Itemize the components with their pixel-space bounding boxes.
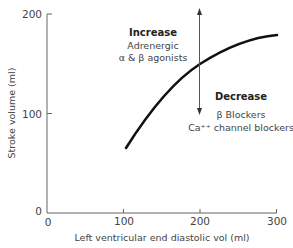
y-axis-title: Stroke volume (ml): [6, 68, 17, 159]
decrease-line2: Ca⁺⁺ channel blockers: [188, 122, 293, 133]
decrease-line1: β Blockers: [216, 109, 265, 120]
x-axis: [47, 209, 277, 213]
y-axis: [47, 14, 52, 213]
x-tick-label-100: 100: [114, 215, 134, 227]
decrease-annotation: Decrease β Blockers Ca⁺⁺ channel blocker…: [188, 91, 293, 133]
increase-title: Increase: [129, 27, 177, 38]
x-axis-title: Left ventricular end diastolic vol (ml): [74, 232, 249, 243]
x-tick-label-300: 300: [267, 215, 287, 227]
y-tick-label-100: 100: [22, 108, 42, 120]
x-tick-label-200: 200: [190, 215, 210, 227]
double-arrow-icon: [197, 8, 202, 115]
increase-line1: Adrenergic: [127, 40, 178, 51]
decrease-title: Decrease: [215, 91, 267, 102]
y-tick-label-200: 200: [22, 8, 42, 20]
frank-starling-chart: 200 100 0 0 100 200 300 Left ventricular…: [0, 0, 293, 248]
increase-line2: α & β agonists: [119, 52, 188, 63]
y-tick-label-0: 0: [35, 205, 42, 217]
increase-annotation: Increase Adrenergic α & β agonists: [119, 27, 188, 63]
x-tick-label-0: 0: [45, 216, 52, 228]
